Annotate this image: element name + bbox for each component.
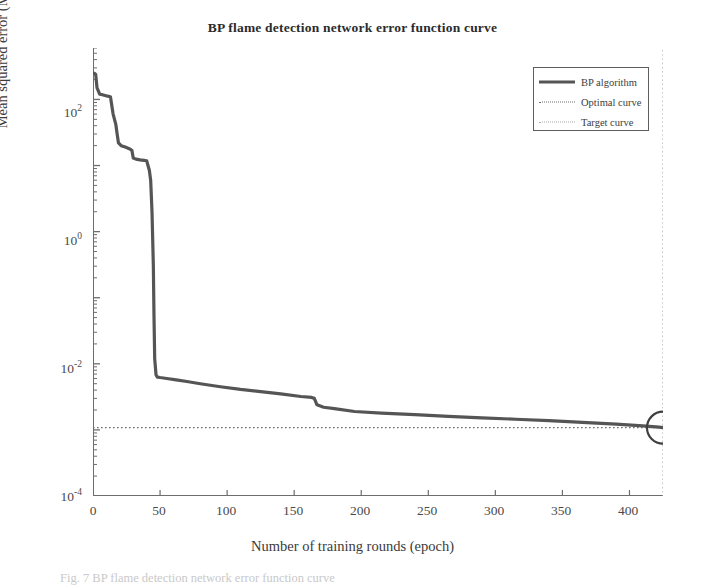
light-dotted-line-key-icon (539, 117, 575, 127)
x-tick-label-200: 200 (338, 503, 382, 519)
figure-caption: Fig. 7 BP flame detection network error … (60, 571, 335, 586)
y-tick-label-1e-4: 10-4 (36, 488, 82, 503)
solid-line-key-icon (539, 77, 575, 87)
x-tick-label-400: 400 (606, 503, 650, 519)
legend: BP algorithm Optimal curve Target curve (533, 67, 649, 131)
x-tick-label-150: 150 (271, 503, 315, 519)
x-axis-ticks (93, 490, 629, 496)
dotted-line-key-icon (539, 97, 575, 107)
x-axis-title: Number of training rounds (epoch) (0, 538, 705, 555)
legend-item-target-curve: Target curve (539, 112, 643, 132)
y-axis-title: Mean squared error (MSE) (0, 0, 11, 170)
x-tick-label-350: 350 (539, 503, 583, 519)
legend-label-target-curve: Target curve (581, 117, 633, 128)
x-tick-label-250: 250 (405, 503, 449, 519)
page-title: BP flame detection network error functio… (0, 20, 705, 36)
y-tick-label-1e2: 102 (36, 104, 82, 119)
x-tick-label-100: 100 (204, 503, 248, 519)
legend-item-bp-algorithm: BP algorithm (539, 72, 643, 92)
y-tick-label-1e-2: 10-2 (36, 360, 82, 375)
x-tick-label-50: 50 (137, 503, 181, 519)
y-tick-label-1e0: 100 (36, 232, 82, 247)
legend-label-optimal-curve: Optimal curve (581, 97, 641, 108)
y-axis-ticks (93, 48, 100, 496)
legend-label-bp-algorithm: BP algorithm (581, 77, 637, 88)
x-tick-label-300: 300 (472, 503, 516, 519)
legend-item-optimal-curve: Optimal curve (539, 92, 643, 112)
x-tick-label-0: 0 (71, 503, 115, 519)
